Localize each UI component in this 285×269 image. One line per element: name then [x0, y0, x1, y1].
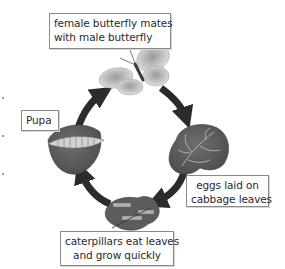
margin-mark [2, 173, 4, 175]
label-adult-line-2: with male butterfly [54, 30, 166, 44]
pupa-on-leaf-icon [48, 125, 104, 174]
label-caterpillar-line-2: and grow quickly [65, 248, 169, 262]
arrow-adult-to-eggs [161, 88, 186, 118]
arrow-caterpillar-to-pupa [81, 172, 110, 204]
margin-mark [2, 135, 4, 137]
label-eggs-stage: eggs laid on cabbage leaves [186, 175, 269, 207]
cabbage-leaf-icon [169, 125, 229, 174]
margin-mark [2, 97, 4, 99]
life-cycle-diagram: female butterfly mates with male butterf… [0, 0, 285, 269]
label-caterpillar-line-1: caterpillars eat leaves [65, 234, 169, 248]
label-caterpillar-stage: caterpillars eat leaves and grow quickly [60, 231, 174, 266]
arrow-pupa-to-adult [78, 93, 103, 128]
label-eggs-line-1: eggs laid on [191, 178, 264, 192]
label-pupa-line-1: Pupa [26, 113, 54, 127]
caterpillar-leaves-icon [105, 196, 159, 230]
label-pupa-stage: Pupa [21, 110, 59, 131]
arrow-eggs-to-caterpillar [156, 172, 184, 202]
label-adult-stage: female butterfly mates with male butterf… [49, 13, 171, 49]
label-adult-line-1: female butterfly mates [54, 16, 166, 30]
label-eggs-line-2: cabbage leaves [191, 192, 264, 206]
